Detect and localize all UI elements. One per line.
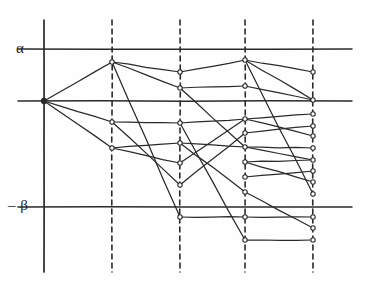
lattice-node [243, 238, 247, 242]
lattice-node [178, 70, 182, 74]
edge [245, 192, 313, 228]
edge [245, 86, 313, 100]
lattice-diagram-figure: α – β [0, 0, 368, 283]
edge [112, 143, 180, 148]
lattice-node [243, 131, 247, 135]
edge [44, 101, 112, 122]
lattice-node [243, 58, 247, 62]
edge [112, 122, 180, 123]
lattice-node [243, 145, 247, 149]
lattice-node [41, 98, 46, 103]
lattice-node [243, 190, 247, 194]
edge [245, 217, 313, 218]
edge [44, 62, 112, 101]
lattice-node [243, 84, 247, 88]
lattice-node [311, 98, 315, 102]
edge [180, 88, 245, 147]
vertical-gridlines-group [44, 20, 313, 272]
edge [44, 101, 112, 148]
edge [245, 114, 313, 119]
lattice-node [311, 70, 315, 74]
lattice-node [311, 226, 315, 230]
edge [112, 62, 180, 72]
edge [180, 60, 245, 72]
lattice-node [110, 146, 114, 150]
lattice-node [311, 169, 315, 173]
axis-label-minus-beta: – β [8, 197, 28, 214]
edge [245, 147, 313, 160]
lattice-node [110, 120, 114, 124]
lattice-node [311, 124, 315, 128]
lattice-node [243, 160, 247, 164]
lattice-node [311, 192, 315, 196]
edge [180, 143, 245, 147]
lattice-node [311, 146, 315, 150]
edge [245, 119, 313, 136]
lattice-node [178, 121, 182, 125]
edge [112, 62, 180, 217]
lattice-node [243, 175, 247, 179]
lattice-node [311, 134, 315, 138]
edge [180, 119, 245, 123]
axis-label-alpha: α [16, 40, 24, 57]
reference-lines-group [18, 49, 352, 207]
edge [180, 217, 245, 218]
edge [180, 143, 245, 192]
lattice-node [311, 112, 315, 116]
vertical-line-stage-2 [180, 20, 181, 272]
lattice-node [178, 161, 182, 165]
lattice-node [178, 141, 182, 145]
edge [245, 147, 313, 148]
chart-canvas [0, 0, 368, 283]
lattice-node [311, 215, 315, 219]
lattice-node [178, 183, 182, 187]
edge [180, 86, 245, 88]
edge [112, 122, 180, 185]
lattice-node [178, 215, 182, 219]
edge [112, 148, 180, 163]
lattice-node [178, 86, 182, 90]
lattice-node [311, 238, 315, 242]
lattice-node [311, 158, 315, 162]
lattice-node [311, 180, 315, 184]
lattice-node [243, 117, 247, 121]
lattice-node [243, 215, 247, 219]
edge [245, 160, 313, 162]
lattice-node [110, 60, 114, 64]
